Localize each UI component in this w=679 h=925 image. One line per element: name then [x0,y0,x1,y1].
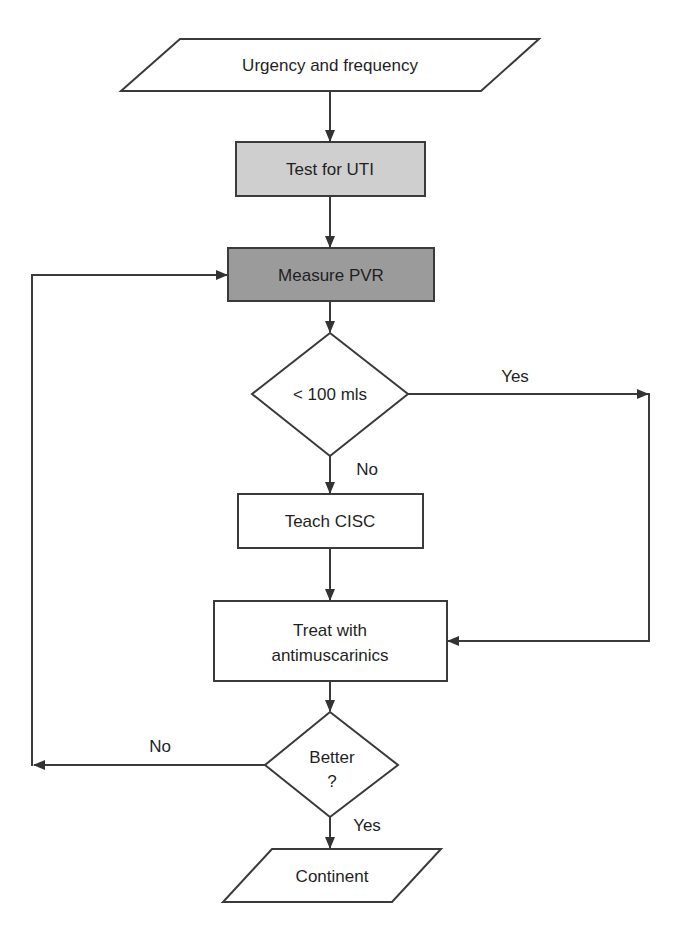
edge-label-better-no: No [149,737,171,756]
measure-pvr-label: Measure PVR [278,266,384,285]
treat-box [214,601,447,681]
node-measure-pvr: Measure PVR [228,248,434,301]
node-treat: Treat with antimuscarinics [214,601,447,681]
edge-label-pvr-yes: Yes [501,367,529,386]
test-uti-label: Test for UTI [286,160,374,179]
teach-cisc-label: Teach CISC [285,512,376,531]
edge-label-better-yes: Yes [353,816,381,835]
treat-label-line2: antimuscarinics [271,646,388,665]
node-end: Continent [223,849,441,902]
start-label: Urgency and frequency [242,56,418,75]
node-pvr-check: < 100 mls [252,333,408,456]
end-label: Continent [296,867,369,886]
treat-label-line1: Treat with [293,621,367,640]
flowchart: Urgency and frequency Test for UTI Measu… [0,0,679,925]
node-test-uti: Test for UTI [236,142,425,196]
node-start: Urgency and frequency [121,39,539,91]
pvr-check-label: < 100 mls [293,385,367,404]
edge-label-pvr-no: No [356,460,378,479]
better-check-label-line2: ? [327,772,336,791]
better-check-label-line1: Better [309,748,355,767]
node-better-check: Better ? [265,712,398,817]
node-teach-cisc: Teach CISC [238,494,423,548]
